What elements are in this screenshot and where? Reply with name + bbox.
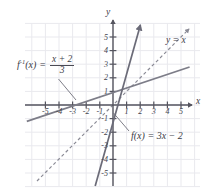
inverse-function-lhs: f-1(x)	[17, 59, 36, 70]
y-tick-label-1: 1	[99, 88, 108, 96]
y-tick-label--5: -5	[96, 170, 108, 178]
x-tick-label--4: -4	[52, 108, 66, 116]
y-tick-label-5: 5	[99, 34, 108, 42]
y-tick-label--3: -3	[96, 142, 108, 150]
y-tick-label-2: 2	[99, 74, 108, 82]
fraction-denominator: 3	[58, 66, 67, 76]
y-tick-label--2: -2	[96, 129, 108, 137]
y-tick-label-3: 3	[99, 61, 108, 69]
y-tick-label-4: 4	[99, 47, 108, 55]
x-tick-label-3: 3	[149, 108, 159, 116]
y-tick-label--1: -1	[96, 115, 108, 123]
identity-line-label: y = x	[166, 36, 186, 46]
fraction: x + 2 3	[50, 55, 74, 75]
x-tick-label-5: 5	[176, 108, 186, 116]
x-tick-label-1: 1	[122, 108, 132, 116]
inverse-label-leader-line	[59, 79, 77, 100]
fraction-numerator: x + 2	[50, 55, 74, 65]
y-axis-label: y	[106, 8, 110, 18]
x-tick-label-2: 2	[135, 108, 145, 116]
x-tick-label--2: -2	[79, 108, 93, 116]
inverse-function-graph-figure: y x -5 -4 -3 -2 -1 1 2 3 4 5 5 4 3 2 1 -…	[0, 0, 207, 190]
y-tick-label--4: -4	[96, 156, 108, 164]
function-equation-label: f(x) = 3x − 2	[131, 131, 183, 141]
x-axis-label: x	[196, 97, 200, 107]
x-tick-label--3: -3	[66, 108, 80, 116]
x-tick-label-4: 4	[162, 108, 172, 116]
inverse-function-equation-label: f-1(x) = x + 2 3	[17, 55, 74, 75]
equals-sign: =	[39, 60, 46, 70]
x-tick-label--5: -5	[38, 108, 52, 116]
